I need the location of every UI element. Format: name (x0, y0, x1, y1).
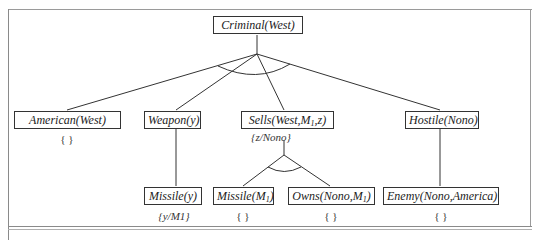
node-label-tail: ) (270, 189, 274, 203)
node-label-tail: ) (367, 189, 371, 203)
subst-owns: { } (316, 210, 346, 222)
subst-american-west: { } (52, 133, 82, 145)
node-label: Sells(West,M (249, 113, 311, 127)
subst-sells: {z/Nono} (241, 131, 301, 143)
node-american-west: American(West) (14, 111, 121, 129)
node-owns-nono-m1: Owns(Nono,M1) (288, 187, 375, 205)
subst-missile-y: {y/M1} (148, 210, 200, 222)
node-missile-y: Missile(y) (144, 187, 202, 205)
subst-missile-m1: { } (228, 210, 258, 222)
node-sells-west-m1-z: Sells(West,M1,z) (241, 111, 334, 129)
node-missile-m1: Missile(M1) (213, 187, 274, 205)
node-label: Missile(M (217, 189, 266, 203)
node-hostile-nono: Hostile(Nono) (405, 111, 479, 129)
subst-enemy: { } (426, 210, 456, 222)
and-arc-sells (268, 167, 301, 172)
node-label-tail: ,z) (315, 113, 327, 127)
node-label: Owns(Nono,M (292, 189, 362, 203)
root-node-criminal-west: Criminal(West) (213, 16, 303, 34)
node-enemy-nono-america: Enemy(Nono,America) (383, 187, 499, 205)
node-weapon-y: Weapon(y) (144, 111, 201, 129)
